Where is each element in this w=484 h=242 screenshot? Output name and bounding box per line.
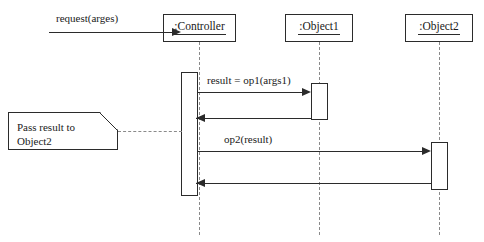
lifeline-box-object2[interactable]: :Object2 (405, 14, 473, 42)
message-label-request: request(arges) (56, 13, 118, 24)
lifeline-label-controller: :Controller (173, 21, 225, 35)
lifeline-dash-object2 (439, 42, 440, 235)
lifeline-label-object1: :Object1 (298, 21, 340, 35)
message-line-op1[interactable] (198, 92, 303, 93)
message-label-op1: result = op1(args1) (207, 75, 291, 86)
message-arrowhead-request (172, 28, 181, 36)
activation-bar-controller[interactable] (181, 72, 198, 196)
note-connector-line (118, 131, 182, 132)
lifeline-label-object2: :Object2 (418, 21, 460, 35)
lifeline-box-object1[interactable]: :Object1 (285, 14, 353, 42)
note-text: Pass result to Object2 (17, 120, 75, 148)
sequence-diagram-canvas: :Controller :Object1 :Object2 request(ar… (0, 0, 484, 242)
lifeline-dash-controller (199, 42, 200, 235)
lifeline-dash-object1 (319, 42, 320, 235)
activation-bar-object2[interactable] (431, 142, 448, 190)
message-line-op2-return[interactable] (196, 183, 432, 184)
note-fold-lines (99, 112, 118, 131)
message-line-op2[interactable] (198, 151, 423, 152)
message-arrowhead-op1 (302, 88, 311, 96)
activation-bar-object1[interactable] (311, 83, 328, 120)
message-arrowhead-op1-return (196, 114, 205, 122)
message-arrowhead-op2 (422, 147, 431, 155)
message-arrowhead-op2-return (196, 179, 205, 187)
message-line-request[interactable] (49, 32, 173, 33)
message-line-op1-return[interactable] (196, 118, 312, 119)
message-label-op2: op2(result) (224, 134, 272, 145)
note-pass-result[interactable]: Pass result to Object2 (8, 112, 118, 150)
